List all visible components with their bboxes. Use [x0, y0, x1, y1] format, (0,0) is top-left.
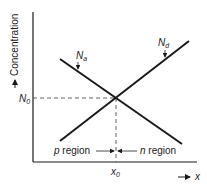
y-axis-label: Concentration [9, 14, 20, 88]
p-region-label: p region [53, 145, 90, 156]
pn-junction-diagram: Concentration x Na Nd N0 x0 p region n r… [0, 0, 207, 185]
x-axis-label: x [194, 171, 201, 182]
svg-text:Concentration: Concentration [9, 14, 20, 76]
x0-label: x0 [110, 166, 120, 178]
nd-label: Nd [158, 37, 170, 49]
n-region-label: n region [140, 145, 176, 156]
na-label: Na [76, 50, 87, 62]
n0-label: N0 [19, 93, 30, 105]
na-curve [60, 59, 182, 144]
